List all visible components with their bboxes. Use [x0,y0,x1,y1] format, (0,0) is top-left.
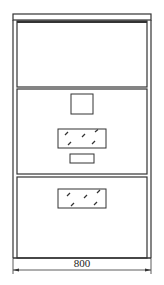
dimension-label: 800 [62,257,102,269]
top-panel [17,21,147,87]
handle-slot [70,154,94,163]
top-cap [13,14,151,20]
arrow-right-icon [145,269,151,272]
middle-panel [17,89,147,174]
arrow-left-icon [13,269,19,272]
cabinet-drawing [0,0,164,285]
square-opening [71,94,93,114]
glass-window [58,129,106,148]
